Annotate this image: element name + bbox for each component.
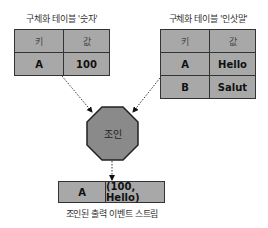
output-value: (100, Hello) <box>106 182 164 202</box>
output-key: A <box>59 182 106 202</box>
output-event: A (100, Hello) <box>58 181 165 203</box>
join-label: 조인 <box>87 107 138 160</box>
output-caption: 조인된 출력 이벤트 스트림 <box>50 207 174 220</box>
